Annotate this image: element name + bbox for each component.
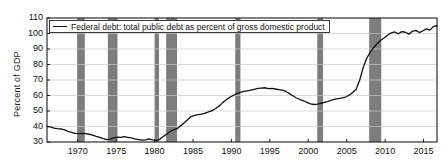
legend-line-swatch bbox=[53, 26, 67, 27]
chart-figure: Percent of GDP 30405060708090100110 1970… bbox=[0, 0, 446, 168]
chart-legend: Federal debt: total public debt as perce… bbox=[49, 20, 330, 33]
legend-label: Federal debt: total public debt as perce… bbox=[71, 22, 325, 32]
